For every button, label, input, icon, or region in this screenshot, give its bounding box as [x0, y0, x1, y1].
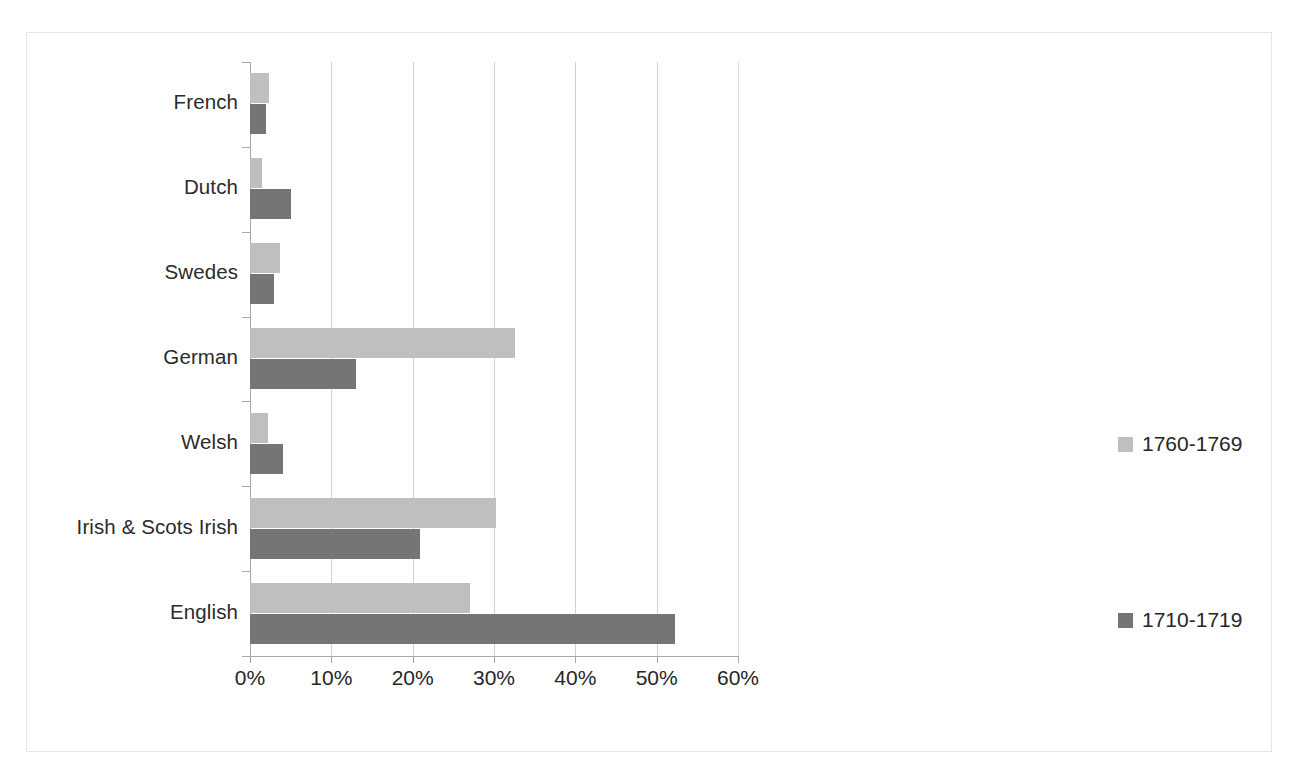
x-axis-tick [413, 656, 414, 663]
y-axis-tick [242, 62, 250, 63]
legend-swatch-icon [1118, 437, 1133, 452]
x-axis-tick [494, 656, 495, 663]
bar-series-b [250, 104, 266, 134]
bar-series-b [250, 274, 274, 304]
gridline [494, 62, 495, 656]
x-axis-tick-label: 60% [717, 666, 759, 690]
x-axis-tick-label: 40% [554, 666, 596, 690]
x-axis-tick-label: 20% [392, 666, 434, 690]
bar-series-b [250, 189, 291, 219]
x-axis-tick [657, 656, 658, 663]
legend-label: 1760-1769 [1142, 432, 1242, 456]
category-label: Dutch [184, 175, 238, 199]
category-label: German [163, 345, 238, 369]
x-axis-tick-label: 0% [235, 666, 265, 690]
category-label: Swedes [164, 260, 238, 284]
bar-series-a [250, 158, 262, 188]
x-axis-tick [738, 656, 739, 663]
y-axis-tick [242, 317, 250, 318]
x-axis-tick [250, 656, 251, 663]
bar-series-a [250, 498, 496, 528]
x-axis-tick [575, 656, 576, 663]
legend-entry-1760-1769: 1760-1769 [1118, 432, 1242, 456]
y-axis-tick [242, 232, 250, 233]
category-label: Irish & Scots Irish [77, 515, 238, 539]
bar-series-b [250, 444, 283, 474]
category-label: French [174, 90, 238, 114]
gridline [413, 62, 414, 656]
legend-entry-1710-1719: 1710-1719 [1118, 608, 1242, 632]
legend-label: 1710-1719 [1142, 608, 1242, 632]
x-axis-tick-label: 30% [473, 666, 515, 690]
category-label: English [170, 600, 238, 624]
bar-series-a [250, 583, 470, 613]
chart-screenshot: FrenchDutchSwedesGermanWelshIrish & Scot… [0, 0, 1295, 779]
y-axis-tick [242, 486, 250, 487]
category-label: Welsh [181, 430, 238, 454]
x-axis-tick-label: 50% [636, 666, 678, 690]
bar-series-a [250, 73, 269, 103]
gridline [738, 62, 739, 656]
x-axis-tick-label: 10% [310, 666, 352, 690]
bar-series-b [250, 359, 356, 389]
x-axis-tick [331, 656, 332, 663]
bar-series-b [250, 529, 420, 559]
bar-series-a [250, 413, 268, 443]
bar-series-a [250, 243, 280, 273]
bar-series-b [250, 614, 675, 644]
legend-swatch-icon [1118, 613, 1133, 628]
y-axis-tick [242, 401, 250, 402]
gridline [657, 62, 658, 656]
y-axis-tick [242, 571, 250, 572]
y-axis-tick [242, 147, 250, 148]
gridline [575, 62, 576, 656]
bar-series-a [250, 328, 515, 358]
y-axis-tick [242, 656, 250, 657]
chart-frame [26, 32, 1272, 752]
